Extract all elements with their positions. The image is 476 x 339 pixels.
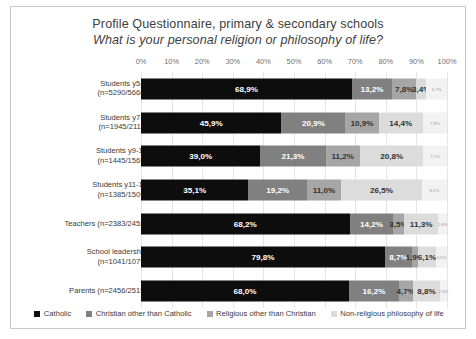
bar-row: Students y9-10 (n=1445/1565)39,0%21,3%11… [11,139,465,173]
stacked-bar: 35,1%19,2%11,0%26,5%8,2% [141,179,447,200]
bar-segment: 3,5% [393,213,404,234]
x-tick-label: 0% [136,57,147,66]
segment-value-label: 10,9% [351,118,374,127]
segment-value-label: 7,9% [430,120,440,125]
bar-segment: 39,0% [141,146,260,167]
stacked-bar: 68,0%16,2%4,7%8,8%2,3% [141,281,447,302]
segment-value-label: 68,9% [235,84,258,93]
chart-subtitle: What is your personal religion or philos… [11,32,465,48]
bar-segment: 10,9% [345,112,378,133]
segment-value-label: 79,8% [252,253,275,262]
bar-row: School leadership (n=1041/1079)79,8%8,7%… [11,241,465,275]
x-tick-label: 50% [287,57,302,66]
bar-segment: 7,9% [423,112,447,133]
bar-segment: 11,0% [307,179,341,200]
bar-segment: 14,4% [379,112,423,133]
segment-value-label: 14,2% [360,219,383,228]
chart-container: Profile Questionnaire, primary & seconda… [10,6,466,329]
bar-segment: 2,3% [440,281,447,302]
segment-value-label: 35,1% [183,185,206,194]
plot-area: 0%10%20%30%40%50%60%70%80%90%100% Studen… [11,57,465,315]
chart-title: Profile Questionnaire, primary & seconda… [11,16,465,32]
segment-value-label: 20,8% [380,152,403,161]
segment-value-label: 14,4% [389,118,412,127]
bar-segment: 16,2% [349,281,399,302]
bar-row: Parents (n=2456/2515)68,0%16,2%4,7%8,8%2… [11,274,465,308]
bar-segment: 8,8% [413,281,440,302]
bar-segment: 11,2% [326,146,360,167]
segment-value-label: 11,2% [331,152,354,161]
segment-value-label: 2,3% [438,289,448,294]
segment-value-label: 11,3% [410,219,433,228]
x-tick-label: 90% [409,57,424,66]
bar-segment: 6,7% [426,78,447,99]
segment-value-label: 7,8% [395,84,413,93]
segment-value-label: 8,2% [429,187,439,192]
bar-segment: 79,8% [141,247,385,268]
bar-segment: 14,2% [350,213,393,234]
legend-item[interactable]: Catholic [34,309,71,318]
segment-value-label: 20,9% [302,118,325,127]
bar-segment: 20,9% [281,112,345,133]
bar-segment: 68,9% [141,78,352,99]
bar-segment: 68,0% [141,281,349,302]
x-tick-label: 30% [225,57,240,66]
bar-row: Students y11-12 (n=1385/1509)35,1%19,2%1… [11,173,465,207]
segment-value-label: 6,7% [432,86,442,91]
bar-segment: 19,2% [248,179,307,200]
x-tick-label: 10% [164,57,179,66]
bar-segment: 45,9% [141,112,281,133]
chart-legend: CatholicChristian other than CatholicRel… [11,309,467,318]
stacked-bar: 45,9%20,9%10,9%14,4%7,9% [141,112,447,133]
legend-swatch-icon [86,311,92,317]
bar-segment: 11,3% [404,213,439,234]
x-tick-label: 60% [317,57,332,66]
x-tick-label: 40% [256,57,271,66]
bar-segment: 3,4% [416,78,426,99]
segment-value-label: 21,3% [281,152,304,161]
segment-value-label: 39,0% [189,152,212,161]
segment-value-label: 19,2% [266,185,289,194]
legend-swatch-icon [331,311,337,317]
bar-rows: Students y5-6 (n=5290/5668)68,9%13,2%7,8… [11,72,465,308]
category-label: Students y11-12 (n=1385/1509) [29,180,147,199]
segment-value-label: 6,1% [418,253,436,262]
bar-segment: 2,8% [438,213,447,234]
legend-swatch-icon [207,311,213,317]
stacked-bar: 39,0%21,3%11,2%20,8%7,7% [141,146,447,167]
legend-label: Christian other than Catholic [96,309,192,318]
category-label: Students y5-6 (n=5290/5668) [29,79,147,98]
legend-label: Religious other than Christian [216,309,316,318]
x-tick-label: 20% [195,57,210,66]
x-tick-label: 100% [438,57,457,66]
bar-segment: 8,2% [422,179,447,200]
bar-segment: 35,1% [141,179,248,200]
legend-swatch-icon [34,311,40,317]
x-tick-label: 70% [348,57,363,66]
category-label: School leadership (n=1041/1079) [29,248,147,267]
category-label: Students y9-10 (n=1445/1565) [29,147,147,166]
stacked-bar: 68,9%13,2%7,8%3,4%6,7% [141,78,447,99]
segment-value-label: 13,2% [361,84,384,93]
legend-label: Catholic [44,309,71,318]
chart-title-block: Profile Questionnaire, primary & seconda… [11,7,465,48]
bar-segment: 20,8% [360,146,424,167]
bar-segment: 21,3% [260,146,325,167]
bar-segment: 6,1% [418,247,437,268]
bar-row: Students y5-6 (n=5290/5668)68,9%13,2%7,8… [11,72,465,106]
segment-value-label: 45,9% [200,118,223,127]
x-axis-ticks: 0%10%20%30%40%50%60%70%80%90%100% [141,57,447,71]
legend-item[interactable]: Christian other than Catholic [86,309,191,318]
segment-value-label: 26,5% [370,185,393,194]
legend-item[interactable]: Non-religious philosophy of life [331,309,444,318]
bar-segment: 26,5% [341,179,422,200]
bar-segment: 68,2% [141,213,350,234]
legend-item[interactable]: Religious other than Christian [207,309,316,318]
category-label: Teachers (n=2383/2452) [29,219,147,229]
segment-value-label: 11,0% [313,185,336,194]
segment-value-label: 3,5% [437,255,447,260]
legend-label: Non-religious philosophy of life [340,309,443,318]
category-label: Parents (n=2456/2515) [29,286,147,296]
stacked-bar: 79,8%8,7%1,9%6,1%3,5% [141,247,447,268]
segment-value-label: 2,8% [438,221,448,226]
